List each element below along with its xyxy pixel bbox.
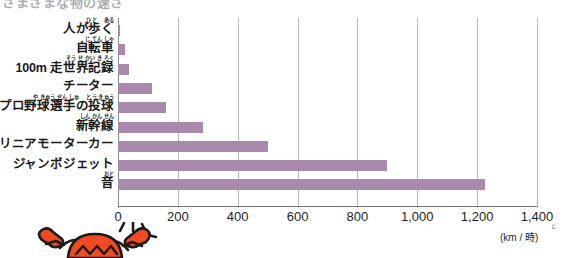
category-label-1: じ てん しゃ自転車: [76, 36, 114, 55]
category-name: 音: [101, 177, 114, 190]
category-label-6: リニアモーターカー: [0, 138, 114, 151]
chart-plot-area: [118, 18, 537, 208]
category-name: 人が歩く: [63, 23, 114, 36]
bar-8: [118, 179, 485, 190]
category-name: 新幹線: [76, 120, 114, 133]
category-name: ジャンボジェット: [13, 158, 114, 171]
category-label-2: そう せ かい き ろく100m 走世界記録: [16, 55, 114, 74]
x-tick-label: 1,200: [461, 209, 494, 224]
bar-row: [118, 102, 166, 113]
crab-character-illustration: [34, 222, 174, 258]
bar-7: [118, 160, 387, 171]
x-axis-line: [118, 206, 537, 207]
category-label-0: ひと ある人が歩く: [63, 17, 114, 36]
bar-2: [118, 64, 129, 75]
bar-row: [118, 83, 152, 94]
bar-4: [118, 102, 166, 113]
bar-row: [118, 64, 129, 75]
x-tick-label: 200: [167, 209, 189, 224]
category-label-8: おと音: [101, 171, 114, 190]
x-tick-label: 1,400: [521, 209, 554, 224]
x-tick-label: 0: [114, 209, 121, 224]
crab-icon: [34, 222, 174, 258]
category-label-7: ジャンボジェット: [13, 158, 114, 171]
category-label-3: チーター: [63, 80, 114, 93]
category-name: リニアモーターカー: [0, 138, 114, 151]
category-name: 100m 走世界記録: [16, 62, 114, 75]
page-title: さまざまな物の速さ: [2, 0, 124, 11]
category-label-4: や きゅう せん しゅ とう きゅうプロ野球選手の投球: [0, 94, 114, 113]
x-tick-label: 400: [227, 209, 249, 224]
bar-row: [118, 160, 387, 171]
bar-row: [118, 25, 120, 36]
category-label-column: ひと ある人が歩くじ てん しゃ自転車そう せ かい き ろく100m 走世界記…: [0, 18, 114, 208]
category-name: 自転車: [76, 42, 114, 55]
category-name: プロ野球選手の投球: [0, 100, 114, 113]
category-name: チーター: [63, 80, 114, 93]
bar-5: [118, 122, 203, 133]
bar-3: [118, 83, 152, 94]
x-tick-label: 1,000: [401, 209, 434, 224]
x-tick-label: 600: [287, 209, 309, 224]
bar-1: [118, 44, 125, 55]
bar-row: [118, 122, 203, 133]
bar-row: [118, 44, 125, 55]
bar-0: [118, 25, 120, 36]
bar-row: [118, 141, 268, 152]
gridline-1400: [537, 18, 538, 208]
category-label-5: しん かん せん新幹線: [76, 113, 114, 132]
bar-row: [118, 179, 485, 190]
x-tick-label: 800: [347, 209, 369, 224]
axis-unit-label: (km / 時): [500, 229, 538, 244]
bar-6: [118, 141, 268, 152]
